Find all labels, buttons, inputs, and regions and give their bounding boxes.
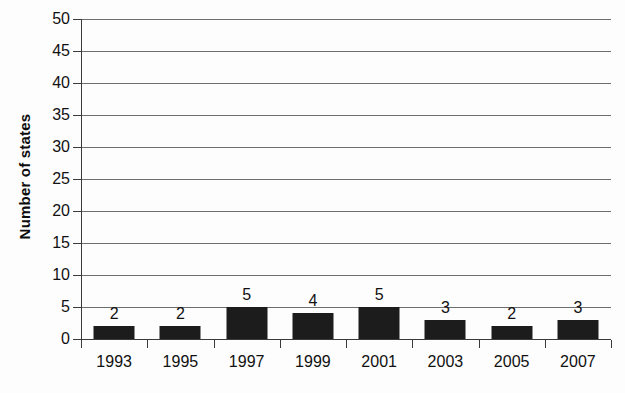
x-axis-category-labels: 19931995199719992001200320052007 [81, 352, 611, 378]
bar-group[interactable]: 5 [214, 19, 280, 339]
x-axis-category-label: 1995 [147, 352, 213, 372]
x-axis-tick-mark [280, 340, 281, 348]
x-axis-tick-mark [412, 340, 413, 348]
x-axis-category-label: 1993 [81, 352, 147, 372]
bar[interactable] [94, 326, 135, 339]
bar-value-label: 2 [176, 306, 185, 322]
bar-group[interactable]: 2 [81, 19, 147, 339]
bar-group[interactable]: 3 [412, 19, 478, 339]
bars-layer: 22545323 [81, 19, 611, 339]
bar[interactable] [425, 320, 466, 339]
bar-chart: Number of states 05101520253035404550 22… [0, 0, 625, 393]
bar-value-label: 5 [242, 287, 251, 303]
x-axis-tick-mark [479, 340, 480, 348]
bar[interactable] [491, 326, 532, 339]
x-axis-tick-mark [346, 340, 347, 348]
bar[interactable] [226, 307, 267, 339]
bar-value-label: 4 [308, 293, 317, 309]
bar-group[interactable]: 4 [280, 19, 346, 339]
bar-value-label: 2 [507, 306, 516, 322]
bar-value-label: 5 [375, 287, 384, 303]
bar-group[interactable]: 2 [147, 19, 213, 339]
x-axis-tick-mark [214, 340, 215, 348]
bar-value-label: 2 [110, 306, 119, 322]
x-axis-category-label: 2001 [346, 352, 412, 372]
x-axis-category-label: 1997 [214, 352, 280, 372]
bar[interactable] [557, 320, 598, 339]
bar-value-label: 3 [573, 300, 582, 316]
x-axis-category-label: 2007 [545, 352, 611, 372]
x-axis-category-label: 1999 [280, 352, 346, 372]
bar-group[interactable]: 3 [545, 19, 611, 339]
bar[interactable] [359, 307, 400, 339]
x-axis-category-label: 2003 [412, 352, 478, 372]
bar[interactable] [292, 313, 333, 339]
bar-group[interactable]: 2 [479, 19, 545, 339]
bar-group[interactable]: 5 [346, 19, 412, 339]
bar-value-label: 3 [441, 300, 450, 316]
x-axis-category-label: 2005 [479, 352, 545, 372]
x-axis-tick-mark [611, 340, 612, 348]
bar[interactable] [160, 326, 201, 339]
x-axis-tick-mark [545, 340, 546, 348]
x-axis-tick-mark [81, 340, 82, 348]
x-axis-tick-mark [147, 340, 148, 348]
